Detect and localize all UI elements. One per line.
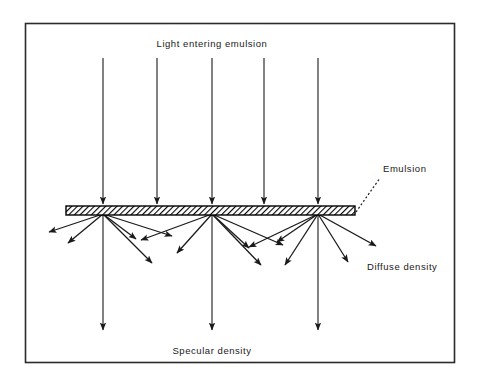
emulsion-layer-bar — [66, 206, 355, 215]
diagram-canvas: Light entering emulsion Emulsion Diffuse… — [0, 0, 477, 384]
diffuse-density-label: Diffuse density — [367, 261, 437, 272]
specular-density-label: Specular density — [172, 345, 251, 356]
optical-density-diagram: Light entering emulsion Emulsion Diffuse… — [0, 0, 477, 384]
incoming-light-label: Light entering emulsion — [157, 38, 268, 49]
emulsion-label: Emulsion — [383, 163, 426, 174]
diagram-frame — [26, 24, 455, 363]
